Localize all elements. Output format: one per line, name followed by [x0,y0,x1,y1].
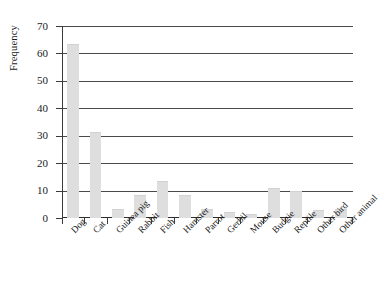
bar[interactable] [157,181,169,218]
bar-slot [129,26,151,218]
y-axis-tick-label: 0 [24,213,48,224]
y-axis-tick-mark [56,108,62,109]
x-axis-tick-mark [218,218,219,224]
y-axis-tick-mark [56,53,62,54]
x-axis-tick-mark [330,218,331,224]
bar-slot [84,26,106,218]
y-axis-tick-mark [56,81,62,82]
y-axis-tick-label: 30 [24,130,48,141]
bar-slot [196,26,218,218]
bar-slot [151,26,173,218]
x-axis-tick-mark [129,218,130,224]
y-axis-tick-label: 50 [24,75,48,86]
bar[interactable] [67,44,79,218]
x-axis-tick-mark [307,218,308,224]
y-axis-tick-label: 20 [24,158,48,169]
x-axis-tick-mark [285,218,286,224]
x-axis-tick-mark [84,218,85,224]
y-axis-tick-label: 10 [24,185,48,196]
x-axis-tick-mark [174,218,175,224]
bar[interactable] [90,132,102,218]
y-axis-tick-label: 70 [24,21,48,32]
y-axis-tick-mark [56,191,62,192]
x-axis-tick-mark [352,218,353,224]
y-axis-tick-label: 40 [24,103,48,114]
bar-slot [307,26,329,218]
bar-slot [174,26,196,218]
bar[interactable] [179,195,191,218]
bar-slot [285,26,307,218]
x-axis-tick-mark [107,218,108,224]
bar[interactable] [112,209,124,218]
y-axis-tick-mark [56,26,62,27]
y-axis-tick-mark [56,136,62,137]
x-axis-tick-label[interactable]: Cat [91,219,107,235]
bar-slot [62,26,84,218]
y-axis-title: Frequency [8,0,24,98]
x-axis-tick-mark [196,218,197,224]
x-axis-tick-mark [151,218,152,224]
bar-slot [107,26,129,218]
bar-slot [263,26,285,218]
bar-slot [330,26,352,218]
bar-slot [218,26,240,218]
bar-slot [241,26,263,218]
x-axis-tick-mark [240,218,241,224]
bars-layer [62,26,352,218]
x-axis-tick-mark [62,218,63,224]
x-axis-tick-mark [263,218,264,224]
y-axis-tick-label: 60 [24,48,48,59]
y-axis-tick-mark [56,163,62,164]
